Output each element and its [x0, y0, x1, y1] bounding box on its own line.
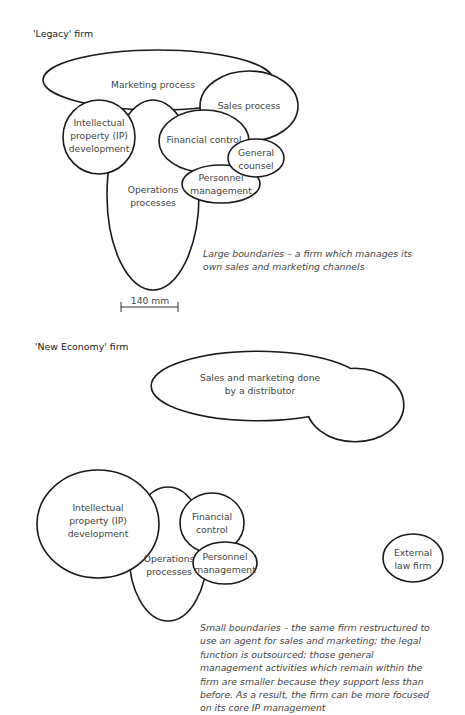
personnel-label-1: Personnel	[199, 172, 244, 183]
new-economy-title: 'New Economy' firm	[35, 341, 128, 352]
ne-personnel-label-1: Personnel	[203, 551, 248, 562]
external-law-firm-ellipse	[383, 534, 443, 582]
ne-ip-label-2: property (IP)	[69, 515, 127, 526]
ne-financial-label-1: Financial	[192, 511, 232, 522]
ne-personnel-label-2: management	[194, 564, 256, 575]
new-economy-caption: Small boundaries – the same firm restruc…	[200, 621, 430, 715]
financial-label: Financial control	[167, 134, 242, 145]
ne-financial-label-2: control	[196, 524, 228, 535]
operations-label-2: processes	[130, 197, 176, 208]
ne-ip-label-1: Intellectual	[72, 502, 123, 513]
legacy-title: 'Legacy' firm	[33, 28, 93, 39]
sales-label: Sales process	[218, 100, 281, 111]
personnel-label-2: management	[190, 185, 252, 196]
ip-label-1: Intellectual	[73, 117, 124, 128]
ip-label-2: property (IP)	[70, 130, 128, 141]
counsel-label-1: General	[238, 147, 274, 158]
operations-label-1: Operations	[128, 184, 179, 195]
law-firm-label-1: External	[394, 547, 432, 558]
law-firm-label-2: law firm	[395, 560, 432, 571]
distributor-blob	[152, 352, 403, 441]
ne-personnel-management-ellipse	[193, 542, 257, 584]
ne-ip-label-3: development	[68, 528, 129, 539]
ne-operations-label-1: Operations	[144, 553, 195, 564]
distributor-label-1: Sales and marketing done	[200, 372, 321, 383]
legacy-caption: Large boundaries – a firm which manages …	[203, 247, 418, 274]
counsel-label-2: counsel	[238, 160, 273, 171]
scale-bar-label: 140 mm	[131, 295, 169, 306]
ne-operations-label-2: processes	[146, 566, 192, 577]
distributor-label-2: by a distributor	[225, 385, 296, 396]
scale-bar: 140 mm	[121, 295, 178, 312]
marketing-label: Marketing process	[111, 79, 195, 90]
ip-label-3: development	[69, 143, 130, 154]
